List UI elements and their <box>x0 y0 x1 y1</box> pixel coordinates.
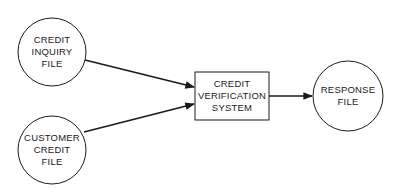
label-line: INQUIRY <box>18 46 86 58</box>
label-line: CUSTOMER <box>14 132 90 144</box>
label-line: FILE <box>308 96 388 108</box>
edge-inquiry-to-verification <box>85 60 194 87</box>
label-line: SYSTEM <box>195 102 269 114</box>
verification-label: CREDIT VERIFICATION SYSTEM <box>195 78 269 114</box>
customer-credit-label: CUSTOMER CREDIT FILE <box>14 132 90 168</box>
label-line: VERIFICATION <box>195 90 269 102</box>
label-line: FILE <box>14 156 90 168</box>
credit-inquiry-label: CREDIT INQUIRY FILE <box>18 34 86 70</box>
label-line: CREDIT <box>14 144 90 156</box>
response-label: RESPONSE FILE <box>308 84 388 108</box>
label-line: CREDIT <box>195 78 269 90</box>
label-line: FILE <box>18 58 86 70</box>
edge-customer-to-verification <box>84 104 194 132</box>
label-line: CREDIT <box>18 34 86 46</box>
label-line: RESPONSE <box>308 84 388 96</box>
